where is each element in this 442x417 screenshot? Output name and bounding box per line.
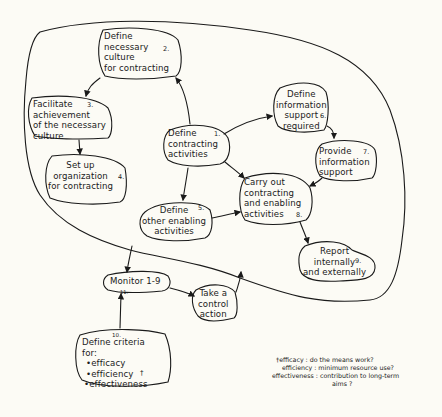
node-7-provide-information-support: Provide information support 7. (319, 146, 370, 178)
node-10-line: for: (82, 348, 148, 359)
node-10-line: •effectiveness (82, 379, 148, 390)
node-7-line: support (319, 167, 370, 178)
node-1-line: contracting (168, 139, 218, 150)
node-3-line: achievement (33, 110, 106, 121)
node-4-line: Set up (48, 160, 113, 171)
legend-aims: aims ? (272, 380, 399, 388)
node-9-line: and externally (303, 267, 366, 278)
node-8-line: Carry out (244, 177, 301, 188)
node-11-number: 11. (120, 287, 128, 298)
node-5-line: Define (142, 205, 206, 216)
node-8-line: contracting (244, 188, 301, 199)
edge-5-8 (212, 212, 240, 218)
node-3-line: culture (33, 131, 106, 142)
node-8-line: and enabling (244, 198, 301, 209)
edge-3-4 (79, 140, 80, 154)
node-7-number: 7. (363, 147, 369, 158)
node-10-number: 10. (112, 330, 121, 341)
node-2-line: Define (104, 31, 169, 42)
node-3-line: Facilitate (33, 99, 106, 110)
edge-1-6 (224, 116, 272, 134)
node-9-line: Report (303, 246, 366, 257)
node-1-line: Define (168, 128, 218, 139)
legend-footnote: †efficacy : do the means work? efficienc… (272, 356, 399, 388)
node-6-number: 6. (320, 111, 326, 122)
node-5-line: other enabling (142, 216, 206, 227)
edge-6-7 (327, 126, 334, 138)
node-6-line: required (276, 121, 327, 132)
edge-7-8 (310, 178, 322, 186)
node-1-number: 1. (214, 129, 220, 140)
node-11-monitor: Monitor 1-9 11. (110, 276, 161, 287)
node-6-line: Define (276, 89, 327, 100)
node-3-line: of the necessary (33, 120, 106, 131)
node-2-number: 2. (163, 44, 169, 55)
node-12-line: control (198, 299, 229, 310)
node-12-line: action (198, 309, 229, 320)
node-9-report-internally-externally: Report internally and externally 9. (303, 246, 366, 278)
node-11-line: Monitor 1-9 (110, 276, 161, 287)
node-5-number: 5. (198, 203, 204, 214)
node-3-facilitate-culture: Facilitate achievement of the necessary … (33, 99, 106, 141)
edge-12-boundary (236, 272, 241, 292)
legend-efficacy: †efficacy : do the means work? (272, 356, 399, 364)
node-10-define-criteria: 10. Define criteria for: •efficacy •effi… (82, 337, 148, 390)
edge-8-9 (300, 222, 308, 243)
node-2-line: for contracting (104, 63, 169, 74)
node-4-line: for contracting (48, 181, 113, 192)
node-5-line: activities (142, 226, 206, 237)
node-8-carry-out-contracting: Carry out contracting and enabling activ… (244, 177, 301, 219)
node-1-define-contracting-activities: Define contracting activities 1. (168, 128, 218, 160)
edge-10-11 (120, 294, 121, 328)
legend-efficiency: efficiency : minimum resource use? (272, 364, 399, 372)
node-5-define-other-enabling: Define other enabling activities 5. (142, 205, 206, 237)
node-7-line: information (319, 157, 370, 168)
node-12-take-control-action: Take a control action (198, 288, 229, 320)
node-2-define-necessary-culture: Define necessary culture for contracting… (104, 31, 169, 73)
node-6-line: information (276, 100, 327, 111)
diagram-lines (0, 0, 442, 417)
node-1-line: activities (168, 149, 218, 160)
node-8-number: 8. (296, 210, 302, 221)
edge-2-3 (86, 78, 100, 96)
node-4-set-up-organization: Set up organization for contracting 4. (48, 160, 113, 192)
node-6-define-information-support: Define information support required 6. (276, 89, 327, 131)
node-8-line: activities (244, 209, 301, 220)
edge-1-2 (176, 78, 190, 124)
node-10-line: •efficiency (82, 369, 148, 380)
node-10-line: •efficacy (82, 358, 148, 369)
node-3-number: 3. (87, 100, 93, 111)
node-2-line: culture (104, 52, 169, 63)
legend-effectiveness: effectiveness : contribution to long-ter… (272, 372, 399, 380)
node-12-line: Take a (198, 288, 229, 299)
edge-1-8 (225, 162, 244, 178)
edge-1-5 (183, 168, 188, 200)
dagger-mark: † (140, 368, 144, 379)
node-2-line: necessary (104, 42, 169, 53)
node-4-number: 4. (118, 172, 124, 183)
node-4-line: organization (48, 171, 113, 182)
edge-11-12 (170, 288, 194, 296)
node-9-number: 9. (355, 256, 361, 267)
